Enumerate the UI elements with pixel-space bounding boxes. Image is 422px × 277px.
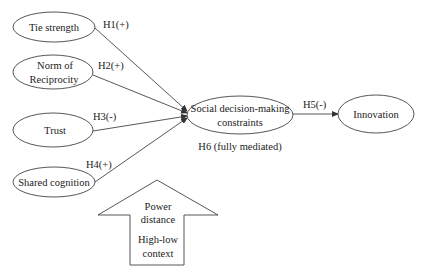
node-label: Norm of	[37, 60, 73, 71]
moderator-label: High-low	[138, 234, 179, 245]
node-label: Shared cognition	[18, 177, 90, 188]
edge-h4	[95, 118, 187, 182]
mediation-note: H6 (fully mediated)	[198, 141, 282, 153]
node-innovation: Innovation	[338, 95, 414, 133]
node-trust: Trust	[13, 113, 93, 147]
moderator-arrow: Power distance High-low context	[98, 180, 218, 265]
edge-label-h2: H2(+)	[98, 60, 124, 72]
node-shared-cognition: Shared cognition	[13, 167, 95, 197]
node-label: Tie strength	[29, 22, 80, 33]
edge-label-h5: H5(-)	[303, 99, 327, 111]
node-label: Innovation	[353, 109, 399, 120]
moderator-label: context	[143, 248, 174, 259]
research-model-diagram: Tie strength Norm of Reciprocity Trust S…	[0, 0, 422, 277]
node-norm-of-reciprocity: Norm of Reciprocity	[13, 55, 93, 89]
edge-label-h4: H4(+)	[86, 159, 112, 171]
node-label: Reciprocity	[30, 74, 80, 85]
node-label: constraints	[217, 117, 263, 128]
node-social-decision-making-constraints: Social decision-making constraints	[187, 96, 293, 134]
edge-label-h1: H1(+)	[103, 19, 129, 31]
edge-h2	[93, 75, 187, 113]
moderator-label: distance	[141, 214, 176, 225]
edge-label-h3: H3(-)	[93, 111, 117, 123]
node-label: Social decision-making	[191, 103, 291, 114]
node-tie-strength: Tie strength	[13, 12, 95, 42]
node-label: Trust	[44, 125, 66, 136]
moderator-label: Power	[145, 201, 172, 212]
